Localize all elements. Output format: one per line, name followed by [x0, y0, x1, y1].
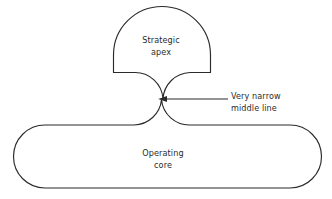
operating-core-label-line1: Operating: [142, 148, 183, 158]
operating-core-label-line2: core: [154, 160, 172, 170]
annotation-label-line2: middle line: [231, 103, 277, 113]
organizational-structure-figure: Strategic apex Operating core Very narro…: [0, 0, 332, 199]
diagram-canvas: Strategic apex Operating core Very narro…: [0, 0, 332, 199]
strategic-apex-label-line2: apex: [151, 47, 171, 57]
annotation-label-line1: Very narrow: [231, 91, 281, 101]
strategic-apex-label-line1: Strategic: [142, 35, 180, 45]
